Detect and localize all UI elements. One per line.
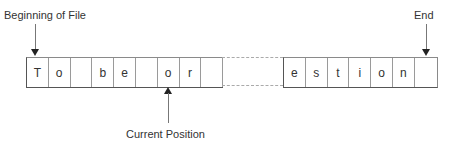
byte-cell: s	[306, 58, 328, 87]
beginning-arrow-line	[35, 24, 36, 50]
beginning-of-file-label: Beginning of File	[4, 9, 86, 21]
byte-cell	[136, 58, 158, 87]
byte-cell: i	[349, 58, 371, 87]
end-arrow-line	[426, 24, 427, 50]
byte-cell: b	[92, 58, 114, 87]
byte-cell: n	[393, 58, 415, 87]
end-label: End	[414, 9, 434, 21]
byte-cell: e	[284, 58, 306, 87]
byte-cell: o	[49, 58, 71, 87]
current-position-label: Current Position	[126, 128, 205, 140]
ellipsis-gap	[222, 57, 283, 86]
byte-cell: o	[158, 58, 180, 87]
byte-cell: o	[371, 58, 393, 87]
right-byte-cells: e s t i o n	[283, 57, 438, 88]
current-position-arrow-line	[168, 93, 169, 123]
byte-cell	[201, 58, 223, 87]
end-arrow-icon	[422, 49, 430, 56]
left-byte-cells: T o b e o r	[26, 57, 223, 88]
beginning-arrow-icon	[31, 49, 39, 56]
byte-cell: r	[180, 58, 202, 87]
byte-cell: e	[114, 58, 136, 87]
byte-cell	[415, 58, 437, 87]
byte-cell	[71, 58, 93, 87]
byte-cell: t	[328, 58, 350, 87]
byte-cell: T	[27, 58, 49, 87]
